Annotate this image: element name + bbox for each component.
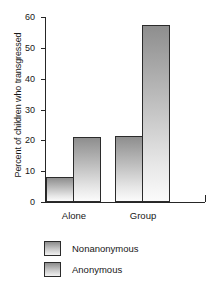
y-axis-title: Percent of children who transgressed <box>13 5 23 205</box>
x-tick-label-group: Group <box>130 210 156 221</box>
x-axis-end-tick <box>205 195 206 202</box>
x-axis-line <box>45 202 205 203</box>
plot-area: 0 10 20 30 40 50 60 Alone Group <box>45 17 205 202</box>
bar-alone-nonanonymous <box>46 177 74 202</box>
y-tick-label-40: 40 <box>25 74 35 84</box>
y-tick-20: 20 <box>41 140 45 141</box>
bar-chart-figure: Percent of children who transgressed 0 1… <box>0 0 220 282</box>
y-tick-label-30: 30 <box>25 105 35 115</box>
x-tick-label-alone: Alone <box>62 210 86 221</box>
legend-swatch-nonanonymous-icon <box>44 241 61 256</box>
legend-label-nonanonymous: Nonanonymous <box>72 243 139 254</box>
y-tick-50: 50 <box>41 48 45 49</box>
y-tick-label-20: 20 <box>25 135 35 145</box>
y-axis-line <box>45 17 46 202</box>
bar-group-nonanonymous <box>115 136 143 202</box>
legend-item-anonymous: Anonymous <box>44 259 139 280</box>
y-tick-10: 10 <box>41 171 45 172</box>
legend-label-anonymous: Anonymous <box>72 264 122 275</box>
bar-alone-anonymous <box>73 137 101 202</box>
y-tick-30: 30 <box>41 110 45 111</box>
y-tick-label-60: 60 <box>25 12 35 22</box>
y-tick-60: 60 <box>41 17 45 18</box>
y-tick-0: 0 <box>41 202 45 203</box>
y-tick-label-0: 0 <box>30 197 35 207</box>
y-tick-40: 40 <box>41 79 45 80</box>
legend-swatch-anonymous-icon <box>44 262 61 277</box>
bar-group-anonymous <box>142 25 170 202</box>
chart-legend: Nonanonymous Anonymous <box>44 238 139 280</box>
y-tick-label-50: 50 <box>25 43 35 53</box>
y-tick-label-10: 10 <box>25 166 35 176</box>
legend-item-nonanonymous: Nonanonymous <box>44 238 139 259</box>
